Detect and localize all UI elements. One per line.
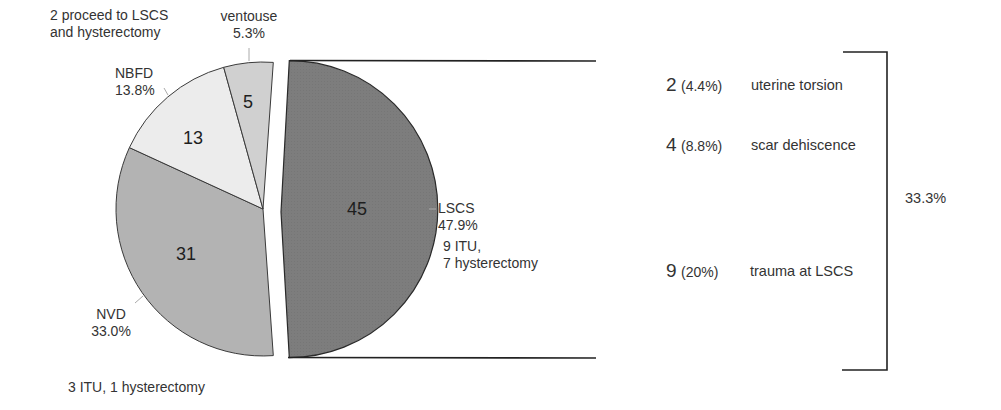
- nvd-label: NVD 33.0%: [84, 306, 138, 340]
- breakdown-row: 4 (8.8%) scar dehiscence: [666, 134, 722, 156]
- breakdown-row: 9 (20%) trauma at LSCS: [666, 260, 718, 282]
- value-nvd: 31: [176, 244, 196, 265]
- breakdown-row: 2 (4.4%) uterine torsion: [666, 74, 722, 96]
- nbfd-pct: 13.8%: [115, 82, 155, 99]
- value-lscs: 45: [347, 199, 367, 220]
- nbfd-label: NBFD 13.8%: [115, 65, 155, 99]
- lscs-label: LSCS 47.9%: [438, 200, 478, 234]
- breakdown-pct: (4.4%): [681, 78, 722, 94]
- lscs-note-line1: 9 ITU,: [443, 238, 538, 255]
- leader-nvd: [135, 296, 143, 303]
- breakdown-count: 4: [666, 134, 677, 155]
- ventouse-note-line2: and hysterectomy: [50, 24, 168, 41]
- ventouse-note: 2 proceed to LSCS and hysterectomy: [50, 7, 168, 41]
- ventouse-pct: 5.3%: [213, 25, 285, 42]
- breakdown-desc: trauma at LSCS: [750, 263, 853, 279]
- pie-chart: [0, 0, 1001, 410]
- leader-nbfd: [164, 88, 168, 95]
- ventouse-name: ventouse: [213, 8, 285, 25]
- value-nbfd: 13: [183, 128, 203, 149]
- breakdown-desc: scar dehiscence: [751, 137, 856, 153]
- lscs-note-line2: 7 hysterectomy: [443, 255, 538, 272]
- breakdown-count: 9: [666, 260, 677, 281]
- bracket: [842, 52, 887, 370]
- breakdown-count: 2: [666, 74, 677, 95]
- nvd-pct: 33.0%: [84, 323, 138, 340]
- lscs-note: 9 ITU, 7 hysterectomy: [443, 238, 538, 272]
- breakdown-pct: (8.8%): [681, 138, 722, 154]
- value-ventouse: 5: [243, 92, 253, 113]
- breakdown-desc: uterine torsion: [751, 77, 843, 93]
- breakdown-pct: (20%): [681, 264, 718, 280]
- bracket-total: 33.3%: [905, 190, 946, 207]
- nbfd-name: NBFD: [115, 65, 155, 82]
- lscs-name: LSCS: [438, 200, 478, 217]
- nvd-note: 3 ITU, 1 hysterectomy: [68, 379, 205, 396]
- connector-bottom: [288, 358, 596, 359]
- ventouse-label: ventouse 5.3%: [213, 8, 285, 42]
- connector-top: [290, 61, 596, 62]
- nvd-name: NVD: [84, 306, 138, 323]
- ventouse-note-line1: 2 proceed to LSCS: [50, 7, 168, 24]
- lscs-pct: 47.9%: [438, 217, 478, 234]
